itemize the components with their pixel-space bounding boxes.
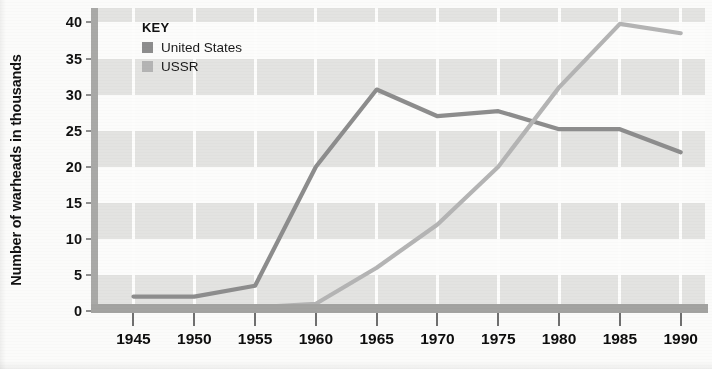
y-axis-tick-label: 10	[34, 231, 82, 247]
x-axis-tick-label: 1975	[481, 330, 515, 348]
y-axis-tick-label: 25	[34, 123, 82, 139]
y-axis-line	[91, 8, 98, 311]
legend-swatch-icon	[142, 42, 153, 53]
y-axis-tick-label: 35	[34, 51, 82, 67]
y-axis-tick-label: 15	[34, 195, 82, 211]
x-axis-tick-mark	[132, 313, 134, 326]
x-axis-ticks	[0, 313, 712, 327]
x-axis-tick-label: 1945	[116, 330, 150, 348]
x-axis-tick-label: 1985	[603, 330, 637, 348]
x-axis-tick-mark	[680, 313, 682, 326]
x-axis-tick-mark	[254, 313, 256, 326]
y-axis-tick-label: 30	[34, 87, 82, 103]
x-axis-tick-mark	[315, 313, 317, 326]
x-axis-tick-label: 1955	[238, 330, 272, 348]
legend: KEY United StatesUSSR	[140, 18, 248, 82]
legend-entry: United States	[142, 40, 242, 55]
x-axis-tick-mark	[619, 313, 621, 326]
x-axis-tick-label: 1950	[177, 330, 211, 348]
legend-entry: USSR	[142, 59, 242, 74]
y-axis-tick-labels: 0510152025303540	[34, 0, 82, 340]
x-axis-tick-label: 1970	[420, 330, 454, 348]
y-axis-tick-label: 5	[34, 267, 82, 283]
x-axis-tick-mark	[436, 313, 438, 326]
x-axis-tick-label: 1990	[663, 330, 697, 348]
x-axis-tick-labels: 1945195019551960196519701975198019851990	[0, 330, 712, 360]
series-line-united-states	[133, 90, 680, 297]
legend-title: KEY	[142, 20, 242, 35]
warheads-line-chart: Number of warheads in thousands 05101520…	[0, 0, 712, 369]
page-edge-shadow-bottom	[0, 361, 712, 369]
x-axis-tick-label: 1980	[542, 330, 576, 348]
legend-entry-label: USSR	[161, 59, 199, 74]
x-axis-tick-mark	[376, 313, 378, 326]
y-axis-tick-label: 20	[34, 159, 82, 175]
legend-swatch-icon	[142, 61, 153, 72]
y-axis-title-text: Number of warheads in thousands	[8, 54, 24, 285]
legend-entry-label: United States	[161, 40, 242, 55]
legend-entries: United StatesUSSR	[142, 40, 242, 74]
y-axis-tick-label: 40	[34, 14, 82, 30]
x-axis-tick-mark	[193, 313, 195, 326]
x-axis-tick-mark	[497, 313, 499, 326]
x-axis-tick-mark	[558, 313, 560, 326]
x-axis-tick-label: 1965	[359, 330, 393, 348]
x-axis-line	[91, 304, 708, 313]
x-axis-tick-label: 1960	[299, 330, 333, 348]
y-axis-title: Number of warheads in thousands	[0, 0, 32, 340]
